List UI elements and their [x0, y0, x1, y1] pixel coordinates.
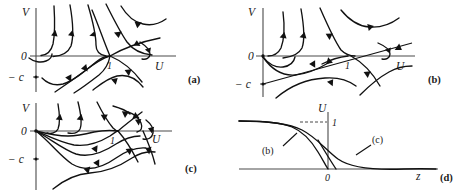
panel-b: V 0 − c U 1 (b): [235, 6, 441, 98]
trajectory: [263, 57, 295, 67]
panel-b-ytick-minus-c: − c: [235, 78, 251, 90]
trajectory: [121, 6, 166, 25]
panel-b-tag: (b): [428, 74, 441, 86]
panel-a-v-axis-label: V: [22, 6, 31, 18]
panel-c-point-minus-c: [34, 157, 37, 160]
panel-a-u-axis-label: U: [155, 60, 164, 72]
flow-arrow: [68, 29, 75, 36]
panel-d-tag: (d): [440, 172, 453, 184]
trajectory: [41, 6, 55, 56]
panel-b-u-axis-label: U: [396, 60, 405, 72]
trajectory: [283, 9, 304, 58]
trajectory: [53, 152, 155, 189]
flow-arrow: [99, 111, 109, 121]
panel-a-point-minus-c: [34, 75, 37, 78]
panel-a-xtick-1: 1: [107, 60, 112, 71]
panel-c-u-axis-label: U: [152, 133, 161, 145]
panel-d-xtick-0: 0: [325, 172, 330, 183]
trajectory: [53, 5, 73, 57]
panel-d: U 1 0 z (b) (c) (d): [239, 102, 453, 184]
panel-d-curve-label-b: (b): [262, 145, 274, 157]
phase-portrait-figure: V 0 − c U 1: [0, 0, 461, 195]
separatrix: [110, 38, 160, 56]
panel-a-ytick-minus-c: − c: [8, 71, 24, 83]
panel-d-ytick-1: 1: [332, 117, 337, 128]
trajectory: [276, 78, 356, 98]
panel-b-v-axis-label: V: [248, 6, 257, 18]
panel-a: V 0 − c U 1: [8, 4, 201, 93]
panel-a-tag: (a): [188, 74, 201, 86]
panel-d-curve-label-c: (c): [372, 134, 383, 146]
panel-a-ytick-0: 0: [21, 50, 27, 62]
panel-c-tag: (c): [185, 163, 197, 175]
panel-d-u-axis-label: U: [318, 102, 327, 114]
flow-arrow: [89, 30, 97, 38]
panel-d-leader-b: [283, 133, 297, 146]
flow-arrow: [327, 79, 333, 86]
flow-arrow: [309, 60, 318, 69]
trajectory: [88, 5, 106, 56]
panel-c-ytick-0: 0: [21, 125, 27, 137]
panel-c: V 0 − c U 1: [8, 102, 197, 190]
trajectory: [320, 8, 355, 56]
panel-d-z-axis-label: z: [415, 170, 421, 182]
separatrix: [118, 131, 138, 162]
panel-c-ytick-minus-c: − c: [8, 153, 24, 165]
trajectory: [268, 12, 284, 56]
panel-c-v-axis-label: V: [22, 102, 31, 114]
trajectory: [93, 75, 143, 90]
trajectory: [341, 10, 399, 27]
panel-b-ytick-0: 0: [248, 50, 254, 62]
panel-d-leader-c: [356, 145, 371, 155]
separatrix: [110, 56, 142, 82]
